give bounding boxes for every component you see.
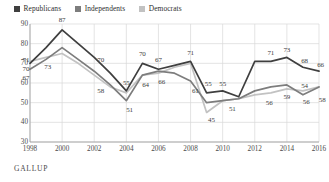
x-axis-tick-label: 1998 bbox=[23, 145, 37, 153]
legend-item-democrats[interactable]: Democrats bbox=[139, 4, 181, 13]
legend-item-label: Independents bbox=[85, 4, 126, 13]
legend-item-label: Democrats bbox=[149, 4, 182, 13]
y-axis-tick-label: 50 bbox=[6, 99, 28, 107]
data-point-label: 70 bbox=[139, 50, 146, 58]
data-point-label: 73 bbox=[283, 46, 290, 54]
data-point-label: 59 bbox=[283, 93, 290, 101]
data-point-label: 55 bbox=[205, 80, 212, 88]
x-axis-tick-label: 2008 bbox=[183, 145, 197, 153]
data-point-label: 66 bbox=[158, 78, 165, 86]
x-axis-tick-label: 2000 bbox=[55, 145, 69, 153]
legend-item-republicans[interactable]: Republicans bbox=[14, 4, 61, 13]
data-point-label: 66 bbox=[317, 61, 324, 69]
data-point-label: 70 bbox=[97, 56, 104, 64]
data-point-label: 71 bbox=[23, 56, 30, 64]
x-axis-tick-label: 2006 bbox=[151, 145, 165, 153]
data-point-label: 70 bbox=[23, 65, 30, 73]
data-point-label: 56 bbox=[266, 99, 273, 107]
x-axis-tick-label: 2014 bbox=[280, 145, 294, 153]
x-axis-tick-label: 2002 bbox=[87, 145, 101, 153]
data-point-label: 56 bbox=[303, 98, 310, 106]
gallup-line-chart: RepublicansIndependentsDemocrats 3040506… bbox=[0, 0, 329, 182]
y-axis-tick-label: 80 bbox=[6, 40, 28, 48]
y-axis-labels: 30405060708090 bbox=[6, 24, 28, 142]
x-axis-tick-label: 2004 bbox=[119, 145, 133, 153]
y-axis-tick-label: 40 bbox=[6, 118, 28, 126]
data-point-label: 68 bbox=[301, 57, 308, 65]
data-point-label: 87 bbox=[59, 16, 66, 24]
data-point-label: 58 bbox=[97, 87, 104, 95]
y-axis-tick-label: 90 bbox=[6, 20, 28, 28]
data-point-label: 58 bbox=[319, 96, 326, 104]
x-axis-tick-label: 2016 bbox=[312, 145, 326, 153]
data-point-labels: 7170677387705855517064676671615555455171… bbox=[30, 24, 319, 142]
data-point-label: 55 bbox=[123, 79, 130, 87]
data-point-label: 55 bbox=[219, 80, 226, 88]
data-point-label: 71 bbox=[267, 49, 274, 57]
data-point-label: 71 bbox=[187, 49, 194, 57]
data-point-label: 51 bbox=[126, 106, 133, 114]
x-axis-tick-label: 2010 bbox=[215, 145, 229, 153]
data-point-label: 67 bbox=[23, 74, 30, 82]
data-point-label: 54 bbox=[301, 82, 308, 90]
legend-swatch-icon bbox=[14, 6, 20, 12]
data-point-label: 67 bbox=[155, 56, 162, 64]
x-axis-tick-label: 2012 bbox=[248, 145, 262, 153]
chart-legend: RepublicansIndependentsDemocrats bbox=[14, 4, 182, 13]
legend-swatch-icon bbox=[75, 6, 81, 12]
data-point-label: 51 bbox=[229, 105, 236, 113]
source-attribution: GALLUP bbox=[14, 164, 48, 173]
x-axis-labels: 1998200020022004200620082010201220142016 bbox=[30, 145, 319, 157]
legend-item-label: Republicans bbox=[24, 4, 62, 13]
data-point-label: 64 bbox=[142, 81, 149, 89]
data-point-label: 73 bbox=[44, 63, 51, 71]
data-point-label: 45 bbox=[208, 116, 215, 124]
legend-swatch-icon bbox=[139, 6, 145, 12]
data-point-label: 61 bbox=[192, 87, 199, 95]
legend-item-independents[interactable]: Independents bbox=[75, 4, 125, 13]
